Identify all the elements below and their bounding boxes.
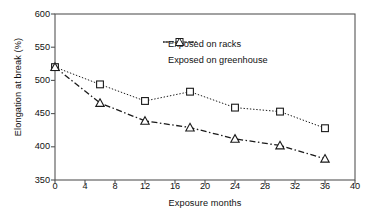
data-point-square [277,108,284,115]
series-line-greenhouse [55,67,325,159]
plot-area [0,0,376,216]
data-point-triangle [321,155,329,163]
data-point-triangle [231,135,239,143]
data-point-triangle [186,123,194,131]
data-point-triangle [141,117,149,125]
chart-container: Elongation at break (%) 600 550 500 450 … [0,0,376,216]
data-point-square [142,98,149,105]
series-line-racks [55,67,325,128]
data-point-square [322,125,329,132]
data-point-square [97,81,104,88]
data-point-square [232,104,239,111]
data-point-square [187,88,194,95]
